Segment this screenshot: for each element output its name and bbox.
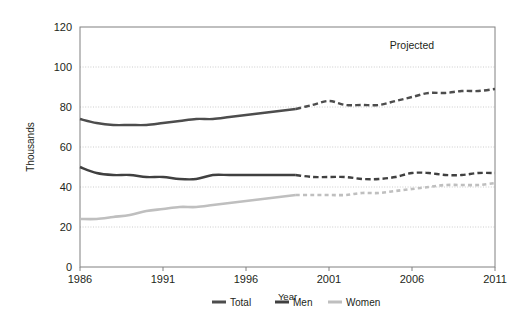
y-axis-tick-labels: 020406080100120 xyxy=(54,21,72,273)
chart-container: 020406080100120 198619911996200120062011… xyxy=(0,0,524,328)
y-tick-label: 40 xyxy=(60,181,72,193)
chart-legend: TotalMenWomen xyxy=(212,297,380,308)
y-axis-title: Thousands xyxy=(25,122,36,171)
x-tick-label: 1986 xyxy=(68,273,92,285)
y-tick-label: 120 xyxy=(54,21,72,33)
series-line-men-projected xyxy=(296,173,495,180)
legend-label-women: Women xyxy=(346,297,380,308)
line-chart: 020406080100120 198619911996200120062011… xyxy=(0,0,524,328)
y-tick-label: 80 xyxy=(60,101,72,113)
chart-annotations: Projected xyxy=(390,39,435,51)
x-tick-label: 1991 xyxy=(151,273,175,285)
x-tick-label: 2006 xyxy=(400,273,424,285)
y-tick-label: 100 xyxy=(54,61,72,73)
legend-label-men: Men xyxy=(293,297,312,308)
y-tick-label: 60 xyxy=(60,141,72,153)
data-series-group xyxy=(80,89,495,219)
annotation-projected: Projected xyxy=(390,39,435,51)
x-tick-label: 2001 xyxy=(317,273,341,285)
y-tick-label: 0 xyxy=(66,261,72,273)
x-axis-ticks xyxy=(80,267,495,271)
legend-label-total: Total xyxy=(230,297,251,308)
x-tick-label: 2011 xyxy=(483,273,507,285)
series-line-men-actual xyxy=(80,167,296,179)
y-tick-label: 20 xyxy=(60,221,72,233)
series-line-total-actual xyxy=(80,109,296,125)
plot-area-frame xyxy=(80,27,495,267)
x-axis-tick-labels: 198619911996200120062011 xyxy=(68,273,507,285)
series-line-women-actual xyxy=(80,195,296,219)
gridlines xyxy=(80,67,495,227)
series-line-total-projected xyxy=(296,89,495,109)
series-line-women-projected xyxy=(296,183,495,195)
x-tick-label: 1996 xyxy=(234,273,258,285)
